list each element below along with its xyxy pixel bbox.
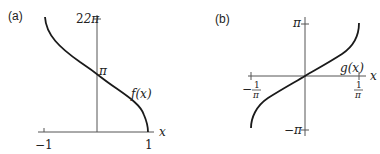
svg-text:−: − [242,82,252,96]
figure: (a) 22π π f(x) x −1 1 (b) π −π g(x) x − … [0,0,380,154]
panel-b: (b) π −π g(x) x − 1 π 1 π [215,12,377,137]
svg-text:1: 1 [254,80,260,90]
panel-a-ytick-pi: π [98,64,108,78]
panel-b-label: (b) [215,12,230,26]
panel-a-label: (a) [8,9,23,23]
panel-a-ytick-2pi: 22π [76,12,100,26]
panel-a-function-label: f(x) [130,87,152,101]
panel-b-xtick-inv-pi: 1 π [354,80,363,100]
panel-b-function-label: g(x) [340,61,364,75]
svg-text:π: π [354,90,362,100]
panel-b-xtick-minus-inv-pi: − 1 π [242,80,261,100]
panel-a-xtick-minus-one: −1 [35,138,53,152]
panel-b-ytick-minus-pi: −π [284,123,303,137]
panel-b-x-label: x [370,69,377,83]
panel-a: (a) 22π π f(x) x −1 1 [8,9,166,152]
panel-a-xtick-one: 1 [145,138,153,152]
svg-text:π: π [252,90,260,100]
panel-b-ytick-pi: π [292,16,302,30]
svg-text:1: 1 [356,80,362,90]
panel-a-x-label: x [159,125,166,139]
